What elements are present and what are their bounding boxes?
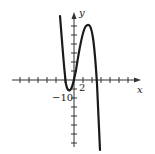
y-axis-arrow-icon xyxy=(72,12,77,19)
x-axis xyxy=(12,77,141,83)
graph xyxy=(0,0,155,154)
x-axis-label: x xyxy=(137,85,143,95)
y-tick-label: −10 xyxy=(52,93,73,103)
x-tick-label: 2 xyxy=(79,83,85,93)
y-axis-label: y xyxy=(79,8,85,18)
x-axis-arrow-icon xyxy=(134,78,141,83)
